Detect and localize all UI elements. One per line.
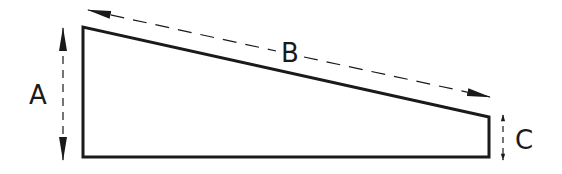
dimension-b-arrow-right: [304, 57, 490, 97]
dimension-b-label: B: [281, 38, 299, 68]
dimension-a-label: A: [29, 80, 47, 110]
wedge-diagram: A B C: [0, 0, 562, 174]
dimension-b-arrow-left: [88, 10, 276, 51]
dimension-c-label: C: [515, 125, 533, 155]
